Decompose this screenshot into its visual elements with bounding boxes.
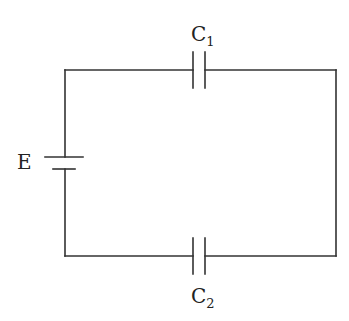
circuit-svg xyxy=(0,0,349,321)
battery-label: E xyxy=(17,152,32,172)
c1-label-sub: 1 xyxy=(206,34,214,49)
c1-label-main: C xyxy=(191,22,206,46)
circuit-diagram: E C1 C2 xyxy=(0,0,349,321)
battery-label-text: E xyxy=(17,150,32,174)
c2-label-sub: 2 xyxy=(206,296,214,311)
c2-label-main: C xyxy=(191,284,206,308)
capacitor-c2-label: C2 xyxy=(191,286,215,310)
capacitor-c1-label: C1 xyxy=(191,24,215,48)
